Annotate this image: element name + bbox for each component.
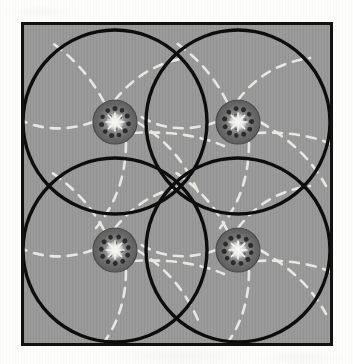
hub-top-right xyxy=(216,100,260,144)
hub-top-left xyxy=(93,100,137,144)
rosette-diagram-svg: Four-circle rosette construction diagram… xyxy=(0,0,353,364)
hub-bottom-right xyxy=(216,228,260,272)
figure-root: Four-circle rosette construction diagram… xyxy=(0,0,353,364)
hub-bottom-left xyxy=(93,227,138,272)
